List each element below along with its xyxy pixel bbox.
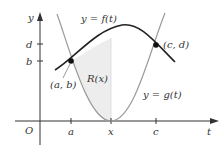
curve-f-label: y = f(t) [80,13,117,24]
y-axis-label: y [27,12,34,23]
tick-label-c: c [153,126,159,137]
curve-g-label: y = g(t) [142,89,182,100]
y-axis-arrow-icon [37,12,43,21]
t-axis-arrow-icon [210,118,219,124]
point-c-d-label: (c, d) [163,39,189,50]
t-axis-label: t [207,126,212,137]
region-label: R(x) [86,73,108,84]
tick-label-x: x [108,126,114,137]
area-between-curves-diagram: y t O a x c d b y = f(t) y = g(t) R(x) (… [0,0,224,153]
point-c-d [153,42,159,48]
point-a-b [68,58,74,64]
point-a-b-leader [63,64,70,78]
tick-label-d: d [26,39,32,50]
origin-label: O [25,125,33,136]
tick-label-b: b [26,56,32,67]
point-a-b-label: (a, b) [50,79,77,90]
tick-label-a: a [68,126,74,137]
